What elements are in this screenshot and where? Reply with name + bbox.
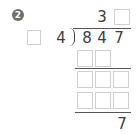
work-blank-box[interactable] — [77, 71, 93, 88]
divisor-blank-box[interactable] — [27, 30, 41, 45]
work-blank-box[interactable] — [95, 92, 111, 109]
work-blank-box[interactable] — [77, 50, 93, 67]
dividend-digit: 7 — [113, 30, 125, 46]
work-blank-box[interactable] — [95, 71, 111, 88]
work-blank-box[interactable] — [113, 71, 129, 88]
problem-number-badge: 2 — [12, 9, 24, 21]
dividend-digit: 4 — [96, 30, 108, 46]
quotient-blank-box[interactable] — [114, 9, 130, 25]
division-bracket — [69, 28, 75, 46]
subtraction-line — [75, 68, 131, 69]
subtraction-line — [75, 112, 131, 113]
quotient-digit: 3 — [96, 9, 108, 25]
dividend-digit: 8 — [81, 30, 93, 46]
remainder-digit: 7 — [116, 116, 128, 132]
work-blank-box[interactable] — [113, 92, 129, 109]
work-blank-box[interactable] — [77, 92, 93, 109]
divisor-digit: 4 — [55, 30, 67, 46]
work-blank-box[interactable] — [95, 50, 111, 67]
